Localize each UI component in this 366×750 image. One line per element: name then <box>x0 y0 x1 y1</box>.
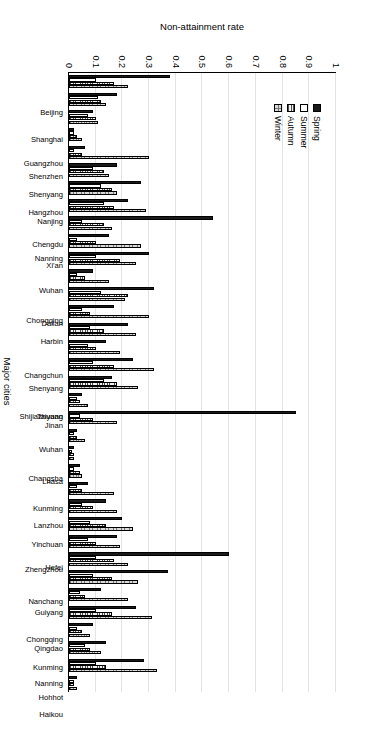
bar-group <box>69 234 336 248</box>
bar-group <box>69 659 336 673</box>
y-axis-tick-label: 0 <box>64 63 74 68</box>
bar-winter <box>69 156 149 159</box>
x-axis-tick-label: Shenzhen <box>29 172 63 181</box>
bar-group <box>69 411 336 425</box>
bar-winter <box>69 386 138 389</box>
x-axis-tick-label: Changchun <box>24 371 63 380</box>
legend-item: Winter <box>273 104 283 148</box>
bar-group <box>69 181 336 195</box>
bar-winter <box>69 368 154 371</box>
y-axis-tick-label: 0.2 <box>117 55 127 68</box>
x-axis-tick-label: Shanghai <box>31 135 63 144</box>
bar-winter <box>69 510 117 513</box>
bar-winter <box>69 563 128 566</box>
x-axis-tick-label: Guiyang <box>35 608 63 617</box>
bar-winter <box>69 669 157 672</box>
bar-winter <box>69 351 120 354</box>
bar-winter <box>69 227 112 230</box>
bar-group <box>69 305 336 319</box>
bar-group <box>69 641 336 655</box>
bar-winter <box>69 138 82 141</box>
bar-group <box>69 606 336 620</box>
bar-group <box>69 199 336 213</box>
x-axis-tick-label: Harbin <box>41 337 63 346</box>
bar-winter <box>69 580 138 583</box>
bar-group <box>69 570 336 584</box>
x-axis-tick-label: Lanzhou <box>34 521 63 530</box>
y-axis-tick-label: 0.9 <box>304 55 314 68</box>
bar-winter <box>69 191 117 194</box>
bar-winter <box>69 421 117 424</box>
bar-winter <box>69 527 133 530</box>
bar-spring <box>69 411 296 414</box>
x-axis-tick-label: Shenyang <box>29 384 63 393</box>
bar-group <box>69 252 336 266</box>
bar-group <box>69 376 336 390</box>
bar-group <box>69 393 336 407</box>
bar-winter <box>69 634 90 637</box>
x-axis-tick-label: Hangzhou <box>28 208 63 217</box>
bar-group <box>69 358 336 372</box>
x-axis-tick-label: Hefei <box>45 562 63 571</box>
plot-area: 00.10.20.30.40.50.60.70.80.91BeijingShan… <box>68 72 336 692</box>
legend-label: Spring <box>312 116 322 141</box>
bar-winter <box>69 85 128 88</box>
legend-label: Winter <box>273 116 283 141</box>
legend-label: Summer <box>299 116 309 148</box>
legend-item: Spring <box>312 104 322 148</box>
legend-label: Autumn <box>286 116 296 146</box>
chart-page: 00.10.20.30.40.50.60.70.80.91BeijingShan… <box>0 0 366 750</box>
x-axis-tick-label: Guangzhou <box>24 159 63 168</box>
x-axis-tick-label: Wuhan <box>39 286 63 295</box>
y-axis-tick-label: 0.3 <box>144 55 154 68</box>
bar-group <box>69 588 336 602</box>
bar-winter <box>69 404 88 407</box>
bar-winter <box>69 439 85 442</box>
chart-legend: SpringSummerAutumnWinter <box>270 104 322 148</box>
bar-winter <box>69 616 152 619</box>
legend-swatch-winter <box>274 104 282 112</box>
y-axis-title: Non-attainment rate <box>161 21 245 32</box>
x-axis-tick-label: Yinchuan <box>32 541 63 550</box>
legend-swatch-spring <box>313 104 321 112</box>
y-axis-tick-label: 1 <box>331 63 341 68</box>
bar-group <box>69 499 336 513</box>
x-axis-tick-label: Chengdu <box>32 239 63 248</box>
legend-swatch-summer <box>300 104 308 112</box>
x-axis-tick-label: Nanjing <box>37 217 63 226</box>
bar-group <box>69 446 336 460</box>
bar-winter <box>69 651 101 654</box>
x-axis-tick-label: Haikou <box>39 710 63 719</box>
x-axis-tick-label: Lhasa <box>42 477 63 486</box>
bar-winter <box>69 209 146 212</box>
bar-group <box>69 517 336 531</box>
x-axis-tick-label: Nanchang <box>28 597 63 606</box>
bar-winter <box>69 262 136 265</box>
x-axis-tick-label: Shenyang <box>29 190 63 199</box>
y-axis-tick-label: 0.1 <box>91 55 101 68</box>
bar-group <box>69 535 336 549</box>
bar-winter <box>69 174 109 177</box>
x-axis-tick-label: Hohhot <box>39 693 64 702</box>
y-axis-tick-label: 0.7 <box>251 55 261 68</box>
bar-winter <box>69 121 98 124</box>
y-axis-tick-label: 0.4 <box>171 55 181 68</box>
y-axis-tick-label: 0.5 <box>198 55 208 68</box>
bar-winter <box>69 244 141 247</box>
x-axis-tick-label: Qingdao <box>34 644 63 653</box>
legend-item: Autumn <box>286 104 296 148</box>
bar-group <box>69 482 336 496</box>
x-axis-tick-label: Beijing <box>40 108 63 117</box>
bar-winter <box>69 333 136 336</box>
bar-winter <box>69 103 106 106</box>
bar-group <box>69 216 336 230</box>
bar-winter <box>69 545 120 548</box>
bar-group <box>69 676 336 690</box>
x-axis-tick-label: Jinan <box>45 421 63 430</box>
x-axis-title: Major cities <box>2 358 13 406</box>
bar-winter <box>69 598 128 601</box>
bar-group <box>69 552 336 566</box>
rotated-figure-wrapper: 00.10.20.30.40.50.60.70.80.91BeijingShan… <box>0 0 366 750</box>
x-axis-tick-label: Kunming <box>33 504 63 513</box>
x-axis-tick-label: Nanning <box>35 679 63 688</box>
